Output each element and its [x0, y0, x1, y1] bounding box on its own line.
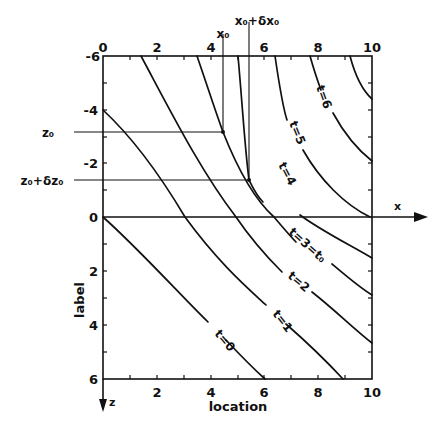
label-t5: t=5 [286, 119, 308, 147]
svg-text:-2: -2 [84, 156, 98, 171]
label-t3: t=3=t₀ [286, 225, 329, 266]
curve-t7 [350, 56, 372, 99]
z-axis-name: z [109, 396, 115, 409]
svg-text:4: 4 [89, 318, 98, 333]
z-tick-labels: -6 -4 -2 0 2 4 6 [84, 49, 100, 387]
z0-dz0-label: z₀+δz₀ [21, 174, 64, 188]
x0-dx0-label: x₀+δx₀ [235, 14, 279, 28]
curve-t0 [103, 217, 265, 379]
svg-text:8: 8 [313, 385, 322, 400]
svg-text:2: 2 [152, 385, 161, 400]
svg-text:6: 6 [259, 40, 268, 55]
label-t6: t=6 [313, 83, 334, 110]
label-t1: t=1 [270, 307, 296, 335]
svg-text:4: 4 [206, 40, 215, 55]
svg-text:6: 6 [89, 372, 98, 387]
svg-text:10: 10 [363, 40, 381, 55]
svg-text:0: 0 [89, 210, 98, 225]
curve-t4 [238, 56, 372, 258]
curve-t6 [310, 56, 372, 161]
svg-text:2: 2 [152, 40, 161, 55]
z0-label: z₀ [42, 126, 54, 140]
svg-text:10: 10 [363, 385, 381, 400]
svg-text:-4: -4 [84, 103, 98, 118]
z-axis-title: label [72, 282, 87, 318]
svg-text:6: 6 [259, 385, 268, 400]
x0-label: x₀ [217, 27, 230, 41]
x-tick-labels-bottom: 2 4 6 8 10 [152, 385, 381, 400]
curve-t5 [275, 56, 370, 217]
svg-text:8: 8 [313, 40, 322, 55]
x-tick-labels-top: 0 2 4 6 8 10 [98, 40, 381, 55]
label-t4: t=4 [275, 160, 299, 188]
x-axis-title: location [209, 399, 268, 414]
svg-text:2: 2 [89, 264, 98, 279]
curve-labels: t=0 t=1 t=2 t=3=t₀ t=4 t=5 t=6 [212, 83, 335, 354]
svg-text:4: 4 [206, 385, 215, 400]
svg-text:-6: -6 [86, 49, 100, 64]
label-t2: t=2 [285, 269, 312, 295]
curve-t2 [141, 56, 372, 343]
x-axis-arrow-icon [414, 212, 428, 222]
label-t0: t=0 [212, 327, 238, 354]
z-axis-arrow-icon [99, 399, 107, 412]
characteristics-diagram: t=0 t=1 t=2 t=3=t₀ t=4 t=5 t=6 0 2 4 6 8… [0, 0, 446, 433]
x-axis-name: x [394, 200, 401, 213]
